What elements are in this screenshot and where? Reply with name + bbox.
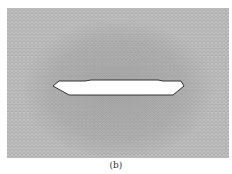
mesh-diagram [0,0,232,174]
figure-caption: (b) [0,160,232,170]
figure-b: (b) [0,0,232,174]
hole-shape [53,80,184,95]
